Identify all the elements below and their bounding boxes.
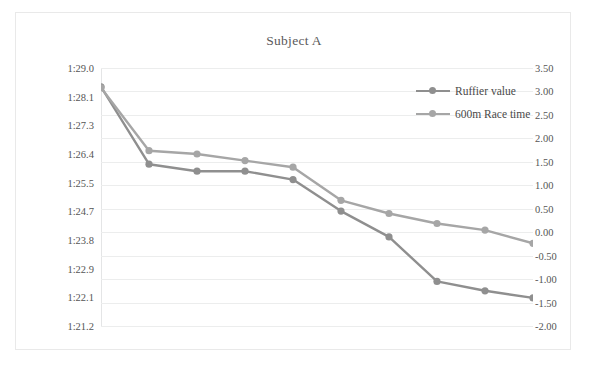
- gridline: [101, 326, 533, 327]
- data-point-marker: [385, 233, 392, 240]
- legend-swatch-icon: [416, 109, 450, 119]
- data-point-marker: [241, 168, 248, 175]
- data-point-marker: [289, 176, 296, 183]
- data-point-marker: [289, 164, 296, 171]
- y-left-tick-label: 1:21.2: [34, 321, 94, 332]
- y-right-tick-label: 1.00: [535, 180, 589, 191]
- y-left-tick-label: 1:29.0: [34, 63, 94, 74]
- y-right-tick-label: 2.00: [535, 133, 589, 144]
- y-right-tick-label: 1.50: [535, 156, 589, 167]
- data-point-marker: [337, 208, 344, 215]
- y-left-tick-label: 1:22.9: [34, 263, 94, 274]
- data-point-marker: [529, 294, 533, 301]
- data-point-marker: [241, 157, 248, 164]
- data-point-marker: [193, 150, 200, 157]
- data-point-marker: [337, 197, 344, 204]
- legend-item[interactable]: 600m Race time: [416, 102, 530, 125]
- chart-title: Subject A: [16, 33, 572, 49]
- data-point-marker: [481, 227, 488, 234]
- data-point-marker: [529, 240, 533, 247]
- y-right-tick-label: -1.00: [535, 274, 589, 285]
- legend-item[interactable]: Ruffier value: [416, 79, 530, 102]
- data-point-marker: [193, 168, 200, 175]
- y-right-tick-label: 0.50: [535, 203, 589, 214]
- chart-legend: Ruffier value600m Race time: [416, 79, 530, 125]
- y-right-tick-label: -0.50: [535, 250, 589, 261]
- y-right-tick-label: 3.00: [535, 86, 589, 97]
- y-right-tick-label: 2.50: [535, 109, 589, 120]
- y-right-tick-label: 3.50: [535, 63, 589, 74]
- legend-label: Ruffier value: [455, 85, 516, 97]
- chart-frame: Subject A 1:21.21:22.11:22.91:23.81:24.7…: [15, 12, 571, 350]
- y-left-tick-label: 1:22.1: [34, 292, 94, 303]
- data-point-marker: [145, 147, 152, 154]
- data-point-marker: [145, 161, 152, 168]
- data-point-marker: [433, 220, 440, 227]
- legend-swatch-icon: [416, 86, 450, 96]
- data-point-marker: [481, 287, 488, 294]
- y-left-tick-label: 1:28.1: [34, 91, 94, 102]
- data-point-marker: [385, 210, 392, 217]
- data-point-marker: [433, 278, 440, 285]
- y-right-tick-label: 0.00: [535, 227, 589, 238]
- y-right-tick-label: -1.50: [535, 297, 589, 308]
- y-right-tick-label: -2.00: [535, 321, 589, 332]
- y-left-tick-label: 1:26.4: [34, 149, 94, 160]
- y-left-tick-label: 1:27.3: [34, 120, 94, 131]
- y-left-tick-label: 1:24.7: [34, 206, 94, 217]
- y-left-tick-label: 1:23.8: [34, 235, 94, 246]
- legend-label: 600m Race time: [455, 108, 530, 120]
- y-left-tick-label: 1:25.5: [34, 177, 94, 188]
